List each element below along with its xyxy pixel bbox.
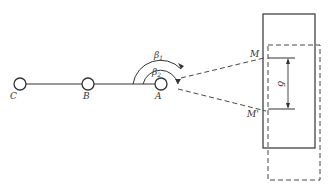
point-c-marker xyxy=(14,78,26,90)
sight-line-lower xyxy=(178,89,266,111)
delta-arrow-down xyxy=(286,103,290,109)
label-m-prime: M' xyxy=(246,109,259,119)
target-original xyxy=(263,14,315,148)
beta1-label: β1 xyxy=(153,50,163,61)
point-a-marker xyxy=(155,78,167,90)
beta2-arrowhead xyxy=(175,79,181,84)
sight-line-upper xyxy=(181,58,264,78)
point-b-marker xyxy=(82,78,94,90)
beta2-label: β2 xyxy=(151,67,161,78)
beta1-arrowhead xyxy=(178,63,184,69)
delta-arrow-up xyxy=(286,58,290,64)
target-displaced xyxy=(268,45,320,180)
survey-diagram: C B A β1 β2 M M' δ xyxy=(0,0,330,190)
point-a-label: A xyxy=(154,91,162,101)
point-b-label: B xyxy=(82,91,90,101)
label-m: M xyxy=(249,49,260,59)
point-c-label: C xyxy=(10,91,17,101)
label-delta: δ xyxy=(276,81,287,87)
